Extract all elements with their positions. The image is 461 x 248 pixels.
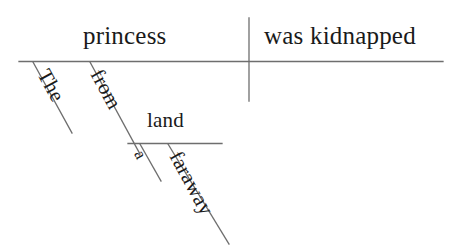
predicate-label: was kidnapped <box>264 23 416 48</box>
object-label-land: land <box>147 110 184 131</box>
sentence-diagram: princess was kidnapped The from land a f… <box>0 0 461 248</box>
subject-label: princess <box>83 23 167 48</box>
